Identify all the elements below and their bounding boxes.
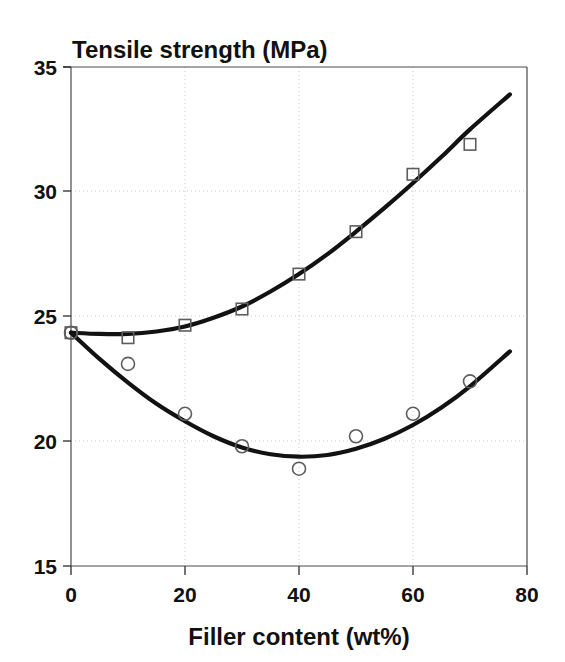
page-title: Tensile strength (MPa) [72,36,328,63]
y-axis-ticks [63,67,71,566]
chart-page: 35 30 25 20 15 0 20 40 60 80 Tensile str… [0,0,565,662]
ytick-label-30: 30 [34,180,57,203]
ytick-label-25: 25 [34,305,58,328]
ytick-label-15: 15 [34,555,58,578]
ytick-label-35: 35 [34,56,58,79]
x-axis-title: Filler content (wt%) [188,623,409,650]
xtick-label-40: 40 [287,583,310,606]
ytick-label-20: 20 [34,430,57,453]
tensile-strength-chart: 35 30 25 20 15 0 20 40 60 80 Tensile str… [0,0,565,662]
xtick-label-60: 60 [401,583,424,606]
xtick-label-0: 0 [65,583,77,606]
x-axis-ticks [71,566,527,575]
xtick-label-20: 20 [173,583,196,606]
xtick-label-80: 80 [515,583,538,606]
